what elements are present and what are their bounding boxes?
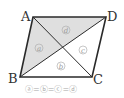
region-label-b: b <box>57 62 65 71</box>
svg-text:a: a <box>37 45 41 53</box>
vertex-label-d: D <box>107 9 117 24</box>
svg-text:d: d <box>64 27 69 35</box>
svg-text:b: b <box>59 63 64 71</box>
vertex-label-c: C <box>93 72 103 87</box>
vertex-label-a: A <box>20 9 31 24</box>
svg-text:c: c <box>81 47 85 55</box>
equality-caption: ⓐ=ⓑ=ⓒ=ⓓ <box>25 85 77 94</box>
region-label-c: c <box>79 46 87 55</box>
parallelogram-diagram: A D B C a d c b ⓐ=ⓑ=ⓒ=ⓓ <box>0 0 124 98</box>
vertex-label-b: B <box>8 71 18 86</box>
